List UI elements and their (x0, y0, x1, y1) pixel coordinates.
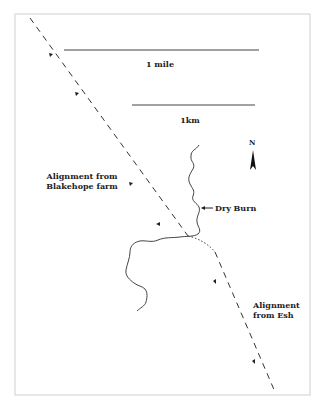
north-arrow-icon (250, 150, 256, 170)
alignment-blakehope-line (30, 18, 188, 236)
river-label: Dry Burn (215, 203, 256, 213)
direction-arrow-icons-se (213, 279, 255, 364)
scale-label-mile: 1 mile (135, 59, 185, 69)
alignment-junction-dotted (188, 236, 215, 252)
label-alignment-esh: Alignment from Esh (253, 300, 300, 320)
scale-label-km: 1km (175, 115, 205, 125)
label-alignment-blakehope: Alignment from Blakehope farm (46, 171, 118, 191)
river-dry-burn (126, 145, 200, 311)
north-label: N (249, 138, 255, 148)
map-frame (15, 14, 310, 395)
alignment-esh-line (215, 252, 275, 392)
direction-arrow-icons (49, 53, 160, 226)
